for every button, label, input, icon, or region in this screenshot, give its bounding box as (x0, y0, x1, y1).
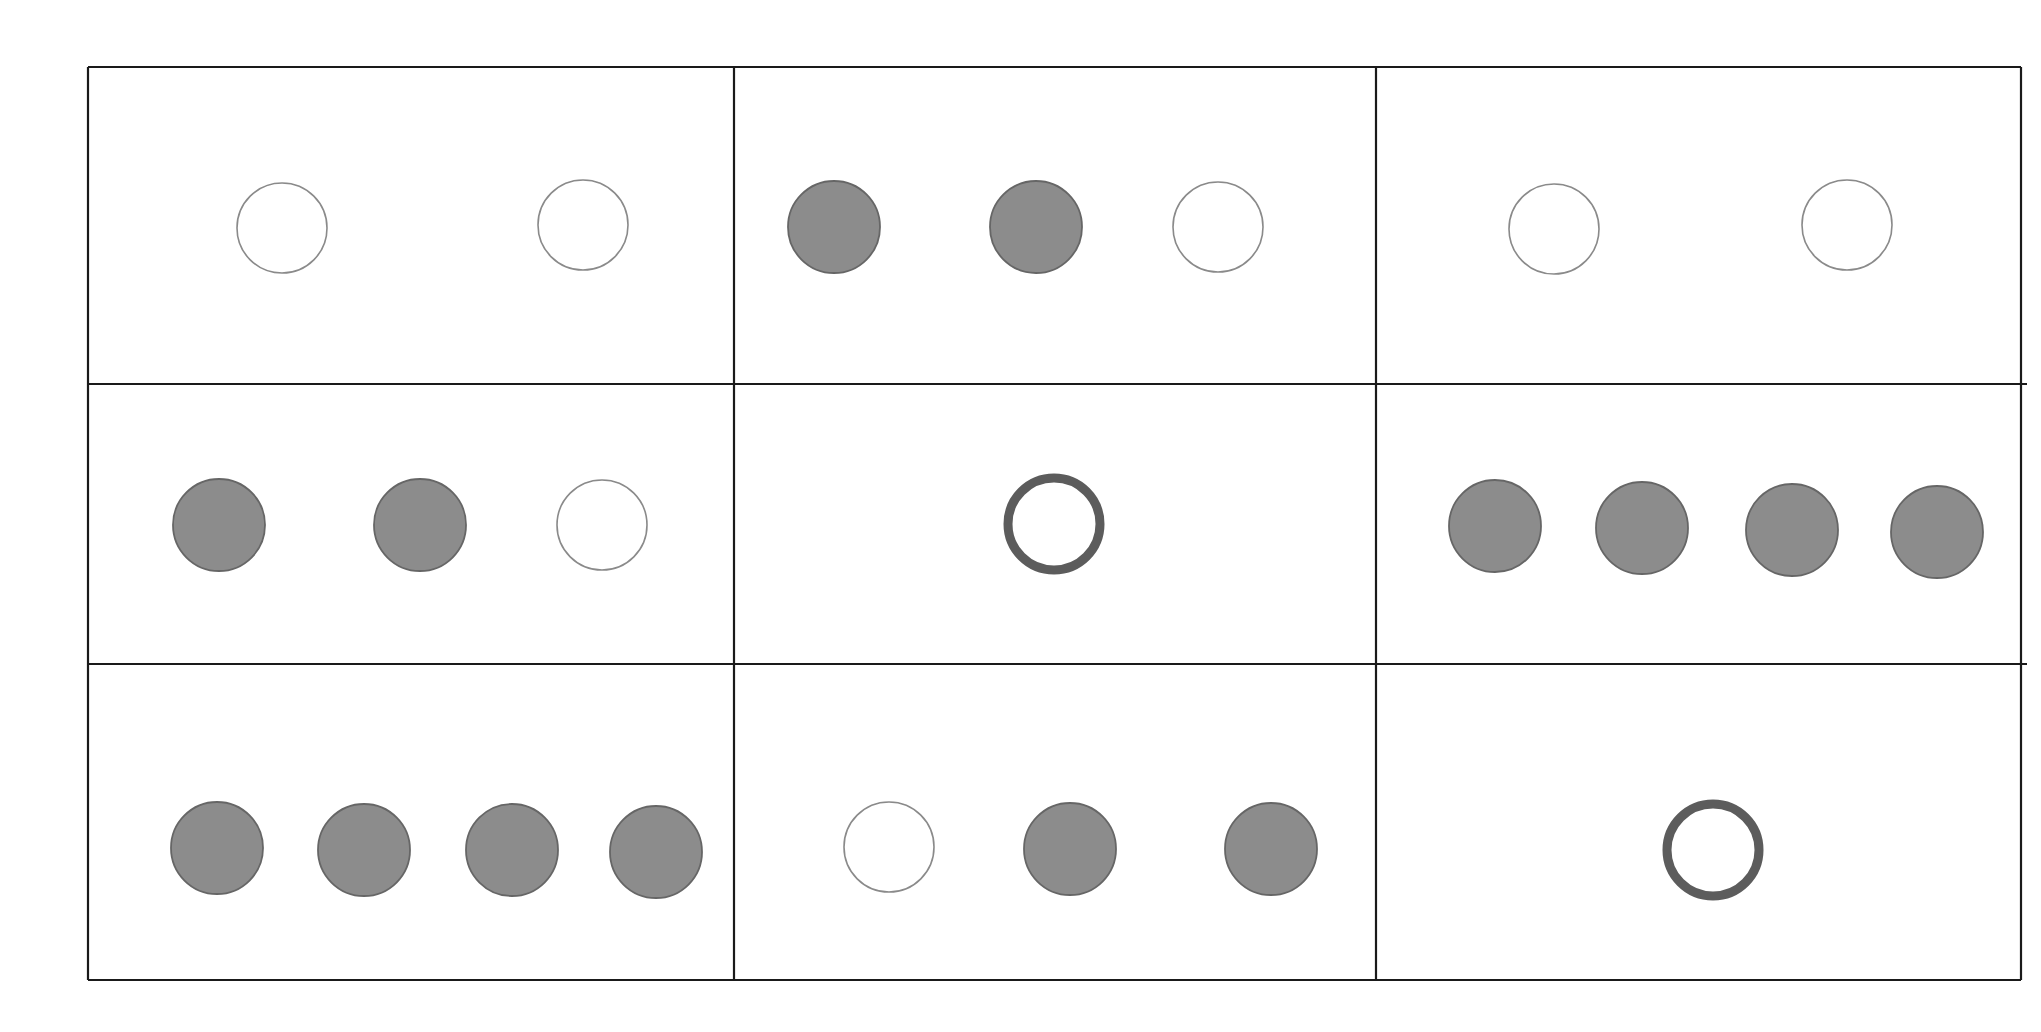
grid-cell-r2-c2 (734, 384, 1376, 664)
filled-circle-icon (1746, 484, 1838, 576)
grid-cell-r1-c3 (1376, 67, 2021, 384)
empty-circle-icon (538, 180, 628, 270)
filled-circle-icon (318, 804, 410, 896)
grid-cell-r2-c3 (1376, 384, 2021, 664)
empty-circle-icon (557, 480, 647, 570)
grid-cell-r1-c2 (734, 67, 1376, 384)
thick-ring-icon (1667, 804, 1759, 896)
filled-circle-icon (610, 806, 702, 898)
filled-circle-icon (171, 802, 263, 894)
filled-circle-icon (990, 181, 1082, 273)
filled-circle-icon (173, 479, 265, 571)
filled-circle-icon (374, 479, 466, 571)
empty-circle-icon (1173, 182, 1263, 272)
empty-circle-icon (844, 802, 934, 892)
filled-circle-icon (1891, 486, 1983, 578)
empty-circle-icon (1802, 180, 1892, 270)
circle-pattern-grid (0, 0, 2041, 1032)
grid-diagram (0, 0, 2041, 1032)
grid-cell-r2-c1 (88, 384, 734, 664)
grid-cell-r3-c3 (1376, 664, 2021, 980)
filled-circle-icon (1024, 803, 1116, 895)
thick-ring-icon (1008, 478, 1100, 570)
filled-circle-icon (466, 804, 558, 896)
filled-circle-icon (788, 181, 880, 273)
filled-circle-icon (1596, 482, 1688, 574)
empty-circle-icon (237, 183, 327, 273)
grid-cell-r3-c1 (88, 664, 734, 980)
empty-circle-icon (1509, 184, 1599, 274)
grid-cell-r1-c1 (88, 67, 734, 384)
grid-cell-r3-c2 (734, 664, 1376, 980)
filled-circle-icon (1449, 480, 1541, 572)
filled-circle-icon (1225, 803, 1317, 895)
